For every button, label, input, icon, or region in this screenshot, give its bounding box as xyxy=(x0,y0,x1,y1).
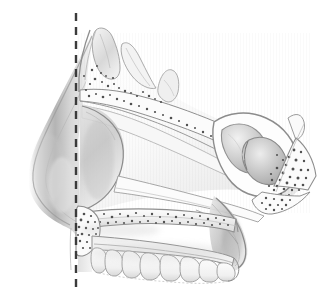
palate-shadow xyxy=(80,223,160,237)
figure-root: Sagittal section of the nasal cavity and… xyxy=(0,0,329,308)
alveolus-shadow xyxy=(90,243,230,261)
nasal-septum-sagittal-illustration xyxy=(0,0,329,308)
